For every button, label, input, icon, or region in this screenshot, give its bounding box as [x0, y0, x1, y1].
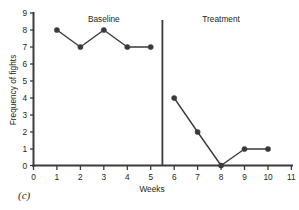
- y-tick-label: 2: [22, 127, 27, 137]
- x-tick-label: 0: [31, 172, 36, 182]
- phase-label-treatment: Treatment: [202, 14, 240, 24]
- data-point: [148, 44, 153, 49]
- x-tick-label: 8: [219, 172, 224, 182]
- x-tick-label: 11: [287, 172, 296, 182]
- y-axis-title: Frequency of fights: [8, 55, 18, 126]
- x-axis-tick-labels: 0 1 2 3 4 5 6 7 8 9 10 11: [31, 172, 296, 182]
- data-point: [242, 146, 247, 151]
- series-markers-treatment: [172, 95, 271, 168]
- data-point: [172, 95, 177, 100]
- x-tick-label: 2: [78, 172, 83, 182]
- data-point: [101, 27, 106, 32]
- data-point: [265, 146, 270, 151]
- x-tick-label: 10: [263, 172, 273, 182]
- figure-panel-c: 9 8 7 6 5 4 3 2 1 0 0: [0, 0, 299, 210]
- y-tick-label: 1: [22, 144, 27, 154]
- y-tick-label: 5: [22, 76, 27, 86]
- y-tick-label: 6: [22, 59, 27, 69]
- y-tick-label: 3: [22, 110, 27, 120]
- x-tick-label: 6: [172, 172, 177, 182]
- y-tick-label: 0: [22, 161, 27, 171]
- x-tick-label: 9: [242, 172, 247, 182]
- data-point: [125, 44, 130, 49]
- y-tick-label: 4: [22, 93, 27, 103]
- x-tick-label: 3: [101, 172, 106, 182]
- series-line-treatment: [174, 98, 268, 166]
- data-point: [195, 129, 200, 134]
- x-tick-label: 7: [195, 172, 200, 182]
- x-tick-label: 1: [55, 172, 60, 182]
- data-point: [78, 44, 83, 49]
- line-chart: 9 8 7 6 5 4 3 2 1 0 0: [0, 0, 299, 210]
- panel-caption: (c): [18, 189, 31, 202]
- x-axis-title: Weeks: [139, 184, 164, 194]
- x-tick-label: 4: [125, 172, 130, 182]
- data-point: [219, 163, 224, 168]
- x-tick-label: 5: [148, 172, 153, 182]
- phase-label-baseline: Baseline: [88, 14, 120, 24]
- y-axis-tick-labels: 9 8 7 6 5 4 3 2 1 0: [22, 8, 27, 171]
- y-tick-label: 8: [22, 25, 27, 35]
- data-point: [54, 27, 59, 32]
- y-tick-label: 9: [22, 8, 27, 18]
- y-tick-label: 7: [22, 42, 27, 52]
